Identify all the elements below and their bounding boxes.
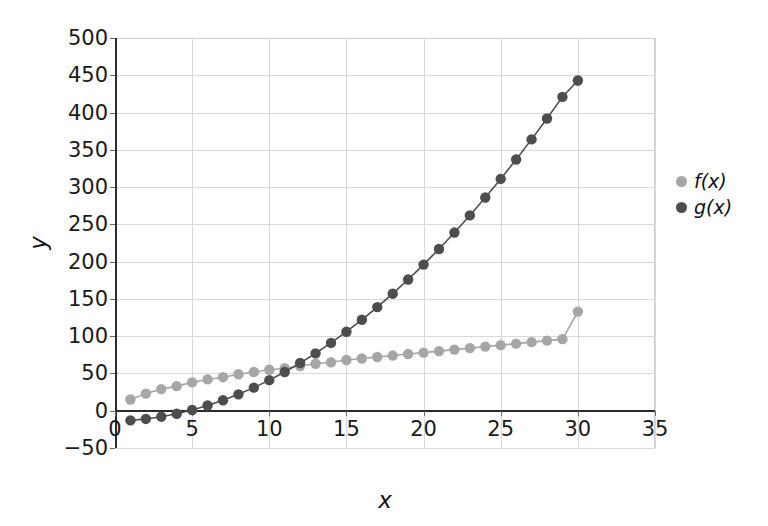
y-tick-mark — [110, 187, 115, 188]
x-tick-mark — [269, 411, 270, 416]
y-tick-mark — [110, 262, 115, 263]
x-tick-mark — [192, 411, 193, 416]
y-tick-mark — [110, 299, 115, 300]
plot-frame-top — [115, 38, 655, 39]
gridline-horizontal — [115, 113, 655, 114]
chart-figure: −50050100150200250300350400450500 051015… — [0, 0, 768, 526]
chart-legend: f(x)g(x) — [676, 168, 732, 220]
gridline-horizontal — [115, 373, 655, 374]
gridline-vertical — [269, 38, 270, 448]
x-tick-mark — [578, 411, 579, 416]
y-tick-mark — [110, 336, 115, 337]
y-tick-mark — [110, 224, 115, 225]
x-tick-mark — [424, 411, 425, 416]
y-tick-label: 300 — [68, 175, 108, 199]
gridline-horizontal — [115, 448, 655, 449]
y-tick-label: 500 — [68, 26, 108, 50]
y-tick-mark — [110, 38, 115, 39]
y-tick-label: 0 — [95, 399, 108, 423]
gridline-horizontal — [115, 262, 655, 263]
gridline-vertical — [655, 38, 656, 448]
x-tick-mark — [115, 411, 116, 416]
gridline-vertical — [424, 38, 425, 448]
gridline-horizontal — [115, 224, 655, 225]
x-tick-label: 35 — [642, 417, 669, 441]
y-tick-label: 250 — [68, 212, 108, 236]
x-tick-label: 15 — [333, 417, 360, 441]
y-tick-mark — [110, 373, 115, 374]
y-tick-label: 350 — [68, 138, 108, 162]
y-tick-mark — [110, 150, 115, 151]
gridline-horizontal — [115, 336, 655, 337]
legend-marker-icon — [676, 202, 687, 213]
y-axis-label: y — [25, 236, 51, 250]
gridline-vertical — [346, 38, 347, 448]
x-tick-label: 10 — [256, 417, 283, 441]
x-tick-label: 5 — [185, 417, 198, 441]
x-tick-mark — [346, 411, 347, 416]
x-tick-label: 25 — [487, 417, 514, 441]
y-tick-label: 100 — [68, 324, 108, 348]
x-tick-mark — [501, 411, 502, 416]
plot-area — [115, 38, 655, 448]
gridline-vertical — [501, 38, 502, 448]
y-axis-spine — [115, 38, 117, 448]
y-tick-label: 150 — [68, 287, 108, 311]
y-axis-tick-labels: −50050100150200250300350400450500 — [0, 0, 108, 526]
y-tick-label: 50 — [81, 361, 108, 385]
y-tick-label: −50 — [64, 436, 108, 460]
y-tick-label: 400 — [68, 101, 108, 125]
x-axis-label: x — [378, 487, 392, 513]
gridline-horizontal — [115, 299, 655, 300]
gridline-horizontal — [115, 150, 655, 151]
gridline-vertical — [192, 38, 193, 448]
x-tick-label: 30 — [564, 417, 591, 441]
legend-label: f(x) — [694, 170, 727, 192]
y-tick-mark — [110, 75, 115, 76]
x-tick-label: 20 — [410, 417, 437, 441]
y-tick-label: 450 — [68, 63, 108, 87]
legend-label: g(x) — [694, 196, 732, 218]
gridline-vertical — [578, 38, 579, 448]
y-tick-mark — [110, 113, 115, 114]
x-tick-label: 0 — [108, 417, 121, 441]
gridline-horizontal — [115, 75, 655, 76]
legend-entry[interactable]: f(x) — [676, 168, 732, 194]
x-axis-spine — [115, 410, 655, 412]
gridline-horizontal — [115, 187, 655, 188]
y-tick-label: 200 — [68, 250, 108, 274]
x-tick-mark — [655, 411, 656, 416]
legend-entry[interactable]: g(x) — [676, 194, 732, 220]
legend-marker-icon — [676, 176, 687, 187]
y-tick-mark — [110, 448, 115, 449]
